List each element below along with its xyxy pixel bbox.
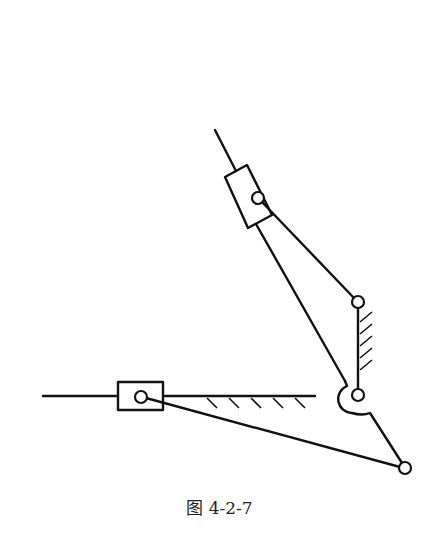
crank-end-pin xyxy=(399,462,411,474)
rocker-top-pin xyxy=(352,296,364,308)
figure-caption: 图 4-2-7 xyxy=(0,494,439,519)
linkage-diagram xyxy=(0,0,439,546)
link-to-rocker xyxy=(262,202,354,298)
upper-slider-pin xyxy=(252,192,264,204)
upper-slider xyxy=(225,165,272,228)
bell-crank xyxy=(338,381,402,463)
rod-to-crank xyxy=(256,224,345,381)
lower-link xyxy=(146,398,400,467)
rocker-bottom-pin xyxy=(352,389,364,401)
fixed-ground-hatch-horizontal xyxy=(207,398,305,408)
fixed-wall-hatch-vertical xyxy=(360,312,372,370)
lower-slider-pin xyxy=(135,391,147,403)
upper-guide-rod xyxy=(215,130,236,171)
